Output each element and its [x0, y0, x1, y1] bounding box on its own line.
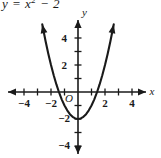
y-axis-up-arrowhead — [74, 20, 81, 28]
x-tick-label-neg2: −2 — [45, 97, 57, 109]
y-axis: 4 2 −2 −4 y — [58, 6, 87, 154]
x-axis-right-arrowhead — [138, 88, 146, 95]
x-tick-label-pos2: 2 — [102, 97, 108, 109]
y-tick-label-neg4: −4 — [58, 139, 70, 151]
coordinate-plane: −4 −2 2 4 x 4 2 −2 −4 y O — [0, 0, 161, 158]
origin-label: O — [65, 92, 73, 104]
y-axis-label: y — [81, 6, 87, 18]
x-tick-label-pos4: 4 — [129, 97, 135, 109]
x-tick-label-neg4: −4 — [18, 97, 30, 109]
y-tick-label-pos4: 4 — [62, 32, 68, 44]
x-axis-label: x — [149, 85, 155, 97]
x-axis-left-arrowhead — [8, 88, 16, 95]
y-axis-down-arrowhead — [74, 146, 81, 154]
y-tick-label-pos2: 2 — [62, 59, 68, 71]
parabola-graph-figure: y = x2 − 2 −4 −2 2 4 x — [0, 0, 161, 158]
